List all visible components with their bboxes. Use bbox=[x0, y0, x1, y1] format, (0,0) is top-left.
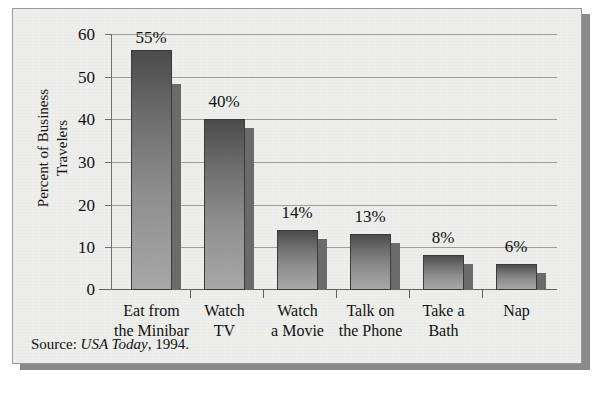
source-prefix: Source: bbox=[31, 336, 81, 352]
bar-shadow-1 bbox=[172, 84, 181, 290]
y-tick-mark-50 bbox=[105, 77, 112, 78]
screenshot-root: Percent of Business Travelers 60 50 40 3… bbox=[0, 0, 602, 402]
bar-eat-from-the-minibar[interactable] bbox=[131, 50, 172, 290]
source-note: Source: USA Today, 1994. bbox=[31, 336, 189, 353]
bar-shadow-3 bbox=[318, 239, 327, 290]
y-tick-label-10: 10 bbox=[51, 239, 95, 256]
y-tick-label-60: 60 bbox=[51, 26, 95, 43]
bar-watch-tv[interactable] bbox=[204, 119, 245, 290]
bar-value-label-4: 13% bbox=[340, 208, 400, 225]
x-tick-mark-5 bbox=[482, 289, 483, 298]
bar-value-label-2: 40% bbox=[194, 93, 254, 110]
chart-figure-frame: Percent of Business Travelers 60 50 40 3… bbox=[12, 8, 582, 364]
bar-shadow-2 bbox=[245, 128, 254, 290]
y-tick-mark-40 bbox=[105, 119, 112, 120]
y-tick-mark-60 bbox=[105, 34, 112, 35]
bar-value-label-6: 6% bbox=[486, 238, 546, 255]
x-tick-mark-1 bbox=[190, 289, 191, 298]
x-axis-label-nap: Nap bbox=[476, 301, 557, 321]
x-axis-label-watch-a-movie: Watch a Movie bbox=[257, 301, 338, 341]
bar-shadow-5 bbox=[464, 264, 473, 290]
y-tick-mark-10 bbox=[105, 247, 112, 248]
source-suffix: , 1994. bbox=[148, 336, 189, 352]
x-tick-mark-2 bbox=[263, 289, 264, 298]
bar-value-label-3: 14% bbox=[267, 204, 327, 221]
bar-watch-a-movie[interactable] bbox=[277, 230, 318, 290]
x-tick-mark-4 bbox=[409, 289, 410, 298]
x-axis-label-talk-on-the-phone: Talk on the Phone bbox=[330, 301, 411, 341]
y-tick-label-40: 40 bbox=[51, 111, 95, 128]
x-tick-mark-3 bbox=[336, 289, 337, 298]
x-axis-label-watch-tv: Watch TV bbox=[184, 301, 265, 341]
bar-shadow-4 bbox=[391, 243, 400, 290]
source-publication: USA Today bbox=[81, 336, 148, 352]
bar-talk-on-the-phone[interactable] bbox=[350, 234, 391, 290]
bar-shadow-6 bbox=[537, 273, 546, 290]
y-tick-label-30: 30 bbox=[51, 154, 95, 171]
bar-nap[interactable] bbox=[496, 264, 537, 290]
y-tick-label-50: 50 bbox=[51, 69, 95, 86]
y-tick-label-0: 0 bbox=[51, 281, 95, 298]
bar-value-label-1: 55% bbox=[121, 29, 181, 46]
bar-chart-plot-area: Percent of Business Travelers 60 50 40 3… bbox=[13, 9, 583, 365]
gridline-50 bbox=[111, 77, 557, 78]
y-tick-mark-30 bbox=[105, 162, 112, 163]
x-axis-label-eat-from-the-minibar: Eat from the Minibar bbox=[111, 301, 192, 341]
bar-take-a-bath[interactable] bbox=[423, 255, 464, 290]
x-axis-label-take-a-bath: Take a Bath bbox=[403, 301, 484, 341]
y-tick-label-20: 20 bbox=[51, 197, 95, 214]
bar-value-label-5: 8% bbox=[413, 229, 473, 246]
y-tick-mark-0 bbox=[105, 289, 112, 290]
y-tick-mark-20 bbox=[105, 205, 112, 206]
